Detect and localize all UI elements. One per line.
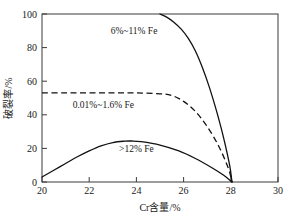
x-tick-label: 20 [37,185,47,196]
y-tick-label: 60 [27,76,37,87]
x-tick-label: 24 [131,185,141,196]
cracking-rate-vs-cr-content-chart: 20 22 24 26 28 30 0 20 40 60 80 100 Cr含量… [0,0,298,220]
annotation-label-6-11-fe: 6%~11% Fe [111,26,158,36]
annotation-label-over-12-fe: >12% Fe [119,144,154,154]
x-tick-label: 26 [179,185,189,196]
chart-figure: 20 22 24 26 28 30 0 20 40 60 80 100 Cr含量… [0,0,298,220]
x-axis-title: Cr含量/% [139,201,180,213]
x-tick-label: 30 [273,185,283,196]
y-tick-label: 100 [22,9,37,20]
y-tick-label: 80 [27,42,37,53]
y-axis-title: 破裂率/% [2,77,14,118]
y-tick-label: 40 [27,109,37,120]
x-tick-label: 28 [226,185,236,196]
annotation-label-001-16-fe: 0.01%~1.6% Fe [73,100,134,110]
x-tick-label: 22 [84,185,94,196]
y-tick-label: 20 [27,143,37,154]
y-tick-label: 0 [32,177,37,188]
